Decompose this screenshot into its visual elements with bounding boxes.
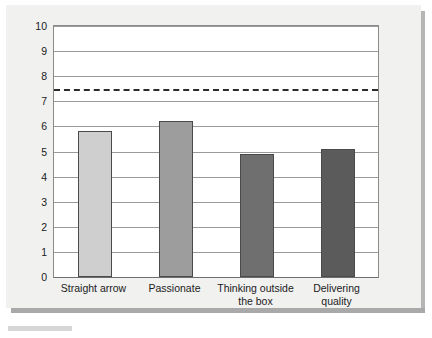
gridline-7: [54, 101, 378, 102]
y-tick-label-9: 9: [41, 46, 47, 57]
plot-area: 012345678910: [53, 25, 379, 278]
gridline-8: [54, 76, 378, 77]
y-tick-label-6: 6: [41, 121, 47, 132]
figure-shadow-right: [421, 11, 425, 313]
bar: [321, 149, 355, 277]
category-label: Thinking outside the box: [215, 282, 296, 307]
y-tick-label-2: 2: [41, 222, 47, 233]
y-tick-label-1: 1: [41, 247, 47, 258]
figure-shadow-bottom: [11, 308, 425, 313]
y-tick-label-4: 4: [41, 171, 47, 182]
gridline-0: [54, 277, 378, 278]
gridline-10: [54, 26, 378, 27]
figure-card: 012345678910 Straight arrowPassionateThi…: [6, 5, 421, 308]
threshold-reference-line: [54, 89, 378, 91]
x-axis-category-labels: Straight arrowPassionateThinking outside…: [53, 282, 379, 322]
bar: [159, 121, 193, 277]
y-tick-label-3: 3: [41, 196, 47, 207]
bar: [78, 131, 112, 277]
y-tick-label-5: 5: [41, 146, 47, 157]
y-tick-label-0: 0: [41, 272, 47, 283]
category-label: Straight arrow: [53, 282, 134, 295]
category-label: Delivering quality: [296, 282, 377, 307]
category-label: Passionate: [134, 282, 215, 295]
gridline-6: [54, 126, 378, 127]
y-tick-label-7: 7: [41, 96, 47, 107]
bar: [240, 154, 274, 277]
y-tick-label-10: 10: [35, 21, 47, 32]
gridline-9: [54, 51, 378, 52]
page-artifact-mark: [8, 326, 72, 331]
y-tick-label-8: 8: [41, 71, 47, 82]
